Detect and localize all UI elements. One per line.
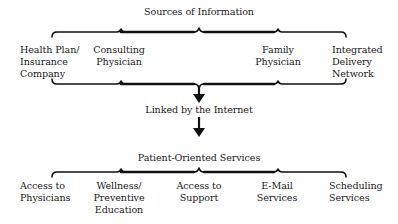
link-label: Linked by the Internet	[145, 104, 252, 116]
arrow-down-icon	[193, 86, 205, 103]
service-email: E-Mail Services	[257, 180, 298, 204]
arrow-down-icon	[193, 117, 205, 137]
source-health-plan: Health Plan/ Insurance Company	[20, 44, 79, 80]
service-access-to-physicians: Access to Physicians	[20, 180, 70, 204]
service-access-to-support: Access to Support	[177, 180, 222, 204]
source-consulting-physician: Consulting Physician	[93, 44, 145, 68]
source-integrated-delivery-network: Integrated Delivery Network	[332, 44, 383, 80]
services-title: Patient-Oriented Services	[138, 152, 261, 164]
source-family-physician: Family Physician	[255, 44, 301, 68]
services-brace	[52, 168, 346, 177]
sources-title: Sources of Information	[144, 6, 254, 18]
service-scheduling: Scheduling Services	[329, 180, 383, 204]
diagram-canvas: Sources of Information Health Plan/ Insu…	[0, 0, 398, 224]
top-brace	[52, 28, 346, 37]
service-wellness-education: Wellness/ Preventive Education	[93, 180, 144, 216]
